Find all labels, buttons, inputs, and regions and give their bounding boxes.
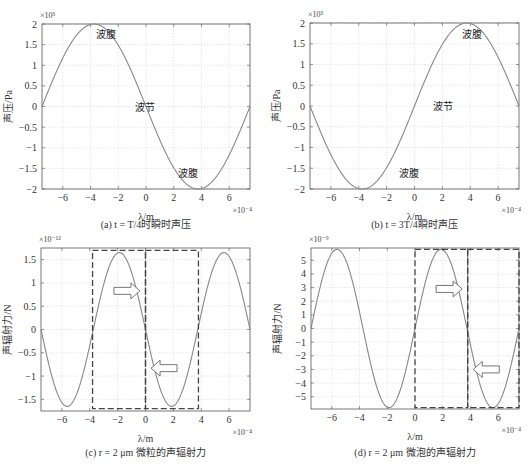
y-tick-label: 0.5 xyxy=(24,301,37,312)
x-tick-label: 0 xyxy=(412,192,417,203)
x-tick-label: −6 xyxy=(57,414,68,425)
y-tick-label: 1 xyxy=(301,309,306,320)
x-axis-label: λ/m xyxy=(138,433,154,444)
y-exponent-label: ×10⁵ xyxy=(40,11,56,20)
x-tick-label: −2 xyxy=(112,414,123,425)
y-axis-label: 声压/Pa xyxy=(270,89,282,122)
x-tick-label: 0 xyxy=(413,412,418,423)
y-axis-label: 声压/Pa xyxy=(2,90,14,123)
annotation-label: 波腹 xyxy=(462,28,482,40)
y-tick-label: −1.5 xyxy=(18,394,36,405)
caption-a: (a) t = T/4时瞬时声压 xyxy=(42,216,250,231)
dashed-region-box xyxy=(468,249,519,407)
y-tick-label: −2 xyxy=(26,184,37,195)
x-tick-label: 4 xyxy=(199,192,204,203)
axis-ticks: −6−4−20246−1.5−1−0.500.511.5 xyxy=(18,248,250,425)
x-tick-label: −4 xyxy=(354,412,365,423)
y-tick-label: 5 xyxy=(301,255,306,266)
x-tick-label: −6 xyxy=(326,412,337,423)
y-exponent-label: ×10⁻¹² xyxy=(39,235,61,244)
y-tick-label: 3 xyxy=(301,282,306,293)
x-exponent-label: ×10⁻⁴ xyxy=(501,206,521,215)
y-tick-label: 1 xyxy=(300,59,305,70)
y-tick-label: 1.5 xyxy=(293,38,306,49)
x-tick-label: 2 xyxy=(440,412,445,423)
y-tick-label: 0 xyxy=(31,324,36,335)
x-tick-label: 6 xyxy=(496,192,501,203)
y-tick-label: 1.5 xyxy=(24,254,37,265)
y-tick-label: 0 xyxy=(300,101,305,112)
annotation-label: 波腹 xyxy=(399,167,419,179)
annotation-label: 波腹 xyxy=(178,167,198,179)
y-tick-label: −0.5 xyxy=(18,347,36,358)
x-axis-label: λ/m xyxy=(407,431,423,442)
caption-d: (d) r = 2 μm 微泡的声辐射力 xyxy=(311,444,519,459)
y-tick-label: −1 xyxy=(25,371,36,382)
chart-panel-c: −6−4−20246−1.5−1−0.500.511.5×10⁻¹²×10⁻⁴λ… xyxy=(1,235,252,444)
x-tick-label: 0 xyxy=(144,192,149,203)
x-tick-label: −2 xyxy=(381,192,392,203)
y-axis-label: 声辐射力/N xyxy=(271,304,283,354)
y-tick-label: −3 xyxy=(295,364,306,375)
y-tick-label: −2 xyxy=(295,350,306,361)
y-tick-label: −1.5 xyxy=(19,163,37,174)
x-tick-label: −4 xyxy=(84,414,95,425)
x-tick-label: 4 xyxy=(199,414,204,425)
y-tick-label: −4 xyxy=(295,378,306,389)
x-tick-label: −2 xyxy=(382,412,393,423)
y-tick-label: 0.5 xyxy=(293,80,306,91)
y-tick-label: 2 xyxy=(301,296,306,307)
x-tick-label: 2 xyxy=(171,414,176,425)
y-tick-label: −0.5 xyxy=(19,122,37,133)
y-tick-label: 2 xyxy=(300,18,305,29)
chart-panel-a: −6−4−20246−2−1.5−1−0.500.511.52×10⁵×10⁻⁴… xyxy=(2,11,252,222)
x-exponent-label: ×10⁻⁴ xyxy=(232,206,252,215)
y-tick-label: −2 xyxy=(294,184,305,195)
y-tick-label: 0 xyxy=(301,323,306,334)
x-tick-label: −4 xyxy=(353,192,364,203)
x-tick-label: 2 xyxy=(440,192,445,203)
x-tick-label: 2 xyxy=(171,192,176,203)
y-tick-label: 2 xyxy=(32,19,37,30)
y-tick-label: 0 xyxy=(32,101,37,112)
y-tick-label: −5 xyxy=(295,391,306,402)
arrow-right-icon xyxy=(436,281,462,297)
y-tick-label: −1 xyxy=(295,337,306,348)
y-tick-label: 4 xyxy=(301,268,306,279)
y-tick-label: −1 xyxy=(294,142,305,153)
chart-panel-d: −6−4−20246−5−4−3−2−1012345×10⁻⁹×10⁻⁴λ/m声… xyxy=(271,235,521,442)
x-tick-label: 0 xyxy=(143,414,148,425)
chart-panel-b: −6−4−20246−2−1.5−1−0.500.511.52×10⁵×10⁻⁴… xyxy=(270,10,521,222)
y-tick-label: −1 xyxy=(26,142,37,153)
y-tick-label: −1.5 xyxy=(287,163,305,174)
y-tick-label: 0.5 xyxy=(25,80,38,91)
x-tick-label: −6 xyxy=(326,192,337,203)
x-tick-label: 6 xyxy=(227,414,232,425)
x-tick-label: 6 xyxy=(227,192,232,203)
x-tick-label: −2 xyxy=(113,192,124,203)
caption-b: (b) t = 3T/4瞬时声压 xyxy=(310,216,519,231)
annotation-label: 波节 xyxy=(433,100,453,112)
x-tick-label: 6 xyxy=(496,412,501,423)
x-tick-label: 4 xyxy=(468,192,473,203)
x-exponent-label: ×10⁻⁴ xyxy=(232,428,252,437)
caption-c: (c) r = 2 μm 微粒的声辐射力 xyxy=(41,444,250,459)
annotation-label: 波节 xyxy=(135,101,155,113)
y-axis-label: 声辐射力/N xyxy=(1,305,13,355)
y-tick-label: 1 xyxy=(32,60,37,71)
x-tick-label: −6 xyxy=(57,192,68,203)
y-exponent-label: ×10⁻⁹ xyxy=(309,235,329,244)
x-exponent-label: ×10⁻⁴ xyxy=(501,426,521,435)
figure-canvas: −6−4−20246−2−1.5−1−0.500.511.52×10⁵×10⁻⁴… xyxy=(0,0,528,468)
x-tick-label: 4 xyxy=(468,412,473,423)
y-tick-label: −0.5 xyxy=(287,121,305,132)
y-tick-label: 1 xyxy=(31,277,36,288)
x-tick-label: −4 xyxy=(85,192,96,203)
annotation-label: 波腹 xyxy=(96,28,116,40)
y-exponent-label: ×10⁵ xyxy=(308,10,324,19)
y-tick-label: 1.5 xyxy=(25,39,38,50)
